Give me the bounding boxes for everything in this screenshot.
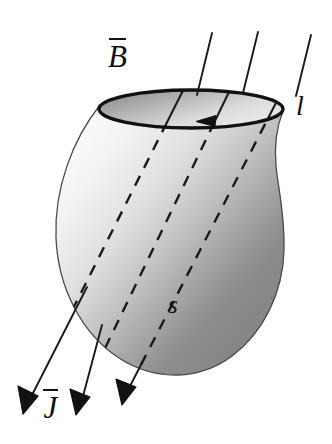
label-current-density-J: J bbox=[43, 389, 58, 423]
glyph-s: s bbox=[168, 292, 178, 317]
label-magnetic-field-B: B bbox=[108, 38, 127, 72]
field-line-3-above bbox=[296, 35, 311, 96]
glyph-B: B bbox=[108, 41, 127, 72]
diagram-canvas bbox=[0, 0, 332, 444]
field-line-1-above bbox=[197, 33, 212, 95]
field-line-2-below bbox=[82, 325, 102, 400]
surface-body-group bbox=[56, 105, 284, 375]
label-boundary-loop-l: l bbox=[296, 92, 304, 120]
field-line-3-arrowhead bbox=[116, 379, 136, 405]
field-line-1-below bbox=[30, 287, 87, 399]
field-line-2-above bbox=[243, 32, 258, 93]
figure-root: B J l s bbox=[0, 0, 332, 444]
field-line-2-arrowhead bbox=[70, 389, 90, 415]
surface-side-shading bbox=[56, 105, 284, 375]
glyph-J: J bbox=[43, 392, 58, 423]
glyph-l: l bbox=[296, 92, 304, 120]
label-surface-s: s bbox=[168, 292, 178, 317]
